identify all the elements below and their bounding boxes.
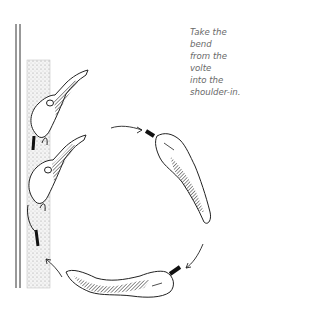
horse-circle-bottom [66, 267, 180, 297]
horse-circle-right [146, 131, 211, 223]
caption-text: Take the bend from the volte into the sh… [190, 26, 246, 98]
arrow-top [111, 126, 142, 133]
arrow-right [186, 244, 203, 268]
